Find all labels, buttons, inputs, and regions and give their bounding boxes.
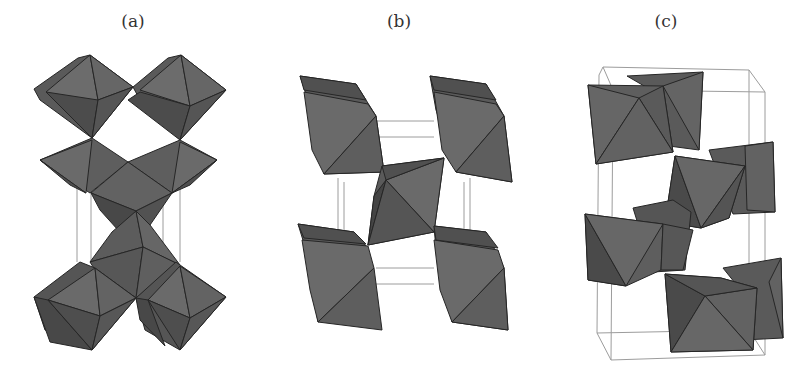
octahedra-structure-a — [0, 0, 266, 380]
panel-a: (a) — [0, 0, 266, 380]
panel-b: (b) — [266, 0, 532, 380]
octahedra-structure-b — [266, 0, 532, 380]
octahedra-structure-c — [533, 0, 799, 380]
panel-c: (c) — [533, 0, 799, 380]
